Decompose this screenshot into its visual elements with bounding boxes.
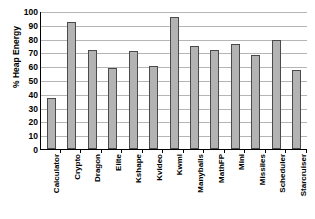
x-label-cell: Mini — [225, 154, 246, 218]
x-axis-category-labels: CalculatorCryptoDragonEliteKshapeKvideoK… — [40, 154, 307, 218]
x-label-cell: Elite — [102, 154, 123, 218]
bar-slot — [184, 12, 204, 149]
bar — [272, 40, 281, 149]
y-tick-label: 40 — [16, 91, 38, 100]
plot-area — [40, 12, 307, 150]
x-label-cell: Kshape — [122, 154, 143, 218]
y-tick-label: 80 — [16, 35, 38, 44]
x-label-cell: Manyballs — [184, 154, 205, 218]
x-label-cell: Crypto — [61, 154, 82, 218]
y-tick-label: 50 — [16, 77, 38, 86]
bar — [251, 55, 260, 149]
x-label-cell: Starcruiser — [286, 154, 307, 218]
y-tick-label: 10 — [16, 132, 38, 141]
y-axis-tick-labels: 1009080706050403020100 — [16, 12, 38, 150]
x-label-cell: Kvideo — [143, 154, 164, 218]
bar — [170, 17, 179, 149]
y-tick-label: 30 — [16, 104, 38, 113]
bars-group — [41, 12, 307, 149]
y-tick-label: 70 — [16, 49, 38, 58]
bar-slot — [164, 12, 184, 149]
bar — [231, 44, 240, 149]
y-tick-label: 100 — [16, 8, 38, 17]
bar-chart: % Heap Energy 1009080706050403020100 Cal… — [0, 0, 315, 219]
bar-slot — [143, 12, 163, 149]
x-category-label: Starcruiser — [300, 154, 308, 196]
bar — [292, 70, 301, 149]
x-label-cell: Scheduler — [266, 154, 287, 218]
bar-slot — [82, 12, 102, 149]
bar — [88, 50, 97, 149]
bar-slot — [246, 12, 266, 149]
bar-slot — [41, 12, 61, 149]
bar — [190, 46, 199, 149]
bar-slot — [287, 12, 307, 149]
bar — [210, 50, 219, 149]
y-tick-label: 20 — [16, 118, 38, 127]
y-tick-label: 60 — [16, 63, 38, 72]
x-label-cell: Calculator — [40, 154, 61, 218]
bar-slot — [102, 12, 122, 149]
bar-slot — [225, 12, 245, 149]
bar — [47, 98, 56, 149]
bar-slot — [266, 12, 286, 149]
y-tick-label: 90 — [16, 22, 38, 31]
bar — [129, 51, 138, 149]
y-tick-label: 0 — [16, 146, 38, 155]
bar — [67, 22, 76, 149]
x-label-cell: Missiles — [245, 154, 266, 218]
bar — [149, 66, 158, 149]
bar — [108, 68, 117, 149]
x-label-cell: Kwml — [163, 154, 184, 218]
x-label-cell: Dragon — [81, 154, 102, 218]
bar-slot — [61, 12, 81, 149]
x-label-cell: MathFP — [204, 154, 225, 218]
bar-slot — [205, 12, 225, 149]
bar-slot — [123, 12, 143, 149]
